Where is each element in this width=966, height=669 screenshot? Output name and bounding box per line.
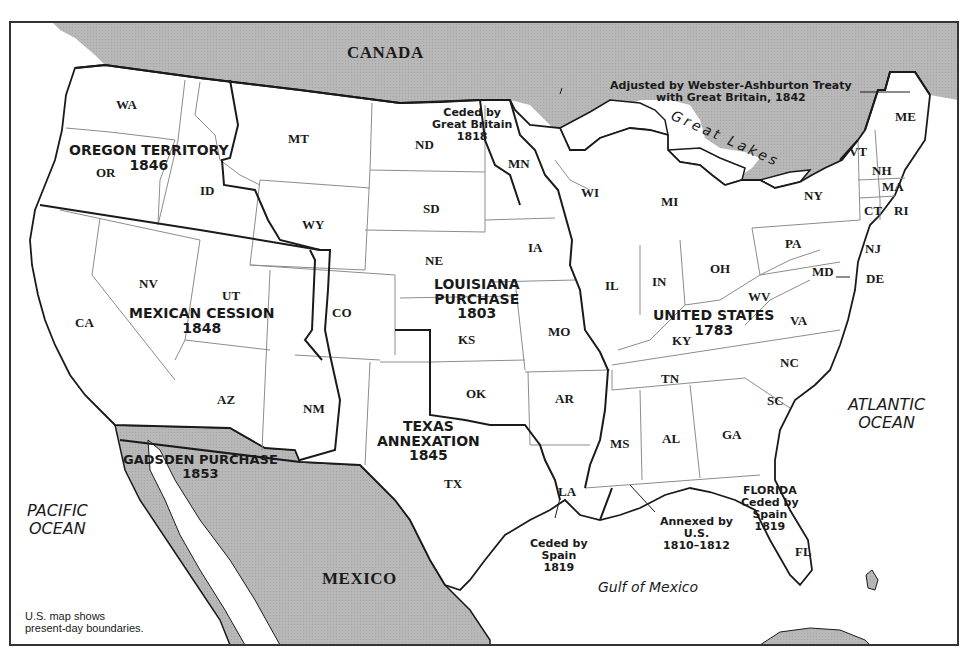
mexican-cession-year: 1848 bbox=[129, 321, 274, 336]
state-label-tx: TX bbox=[444, 477, 462, 490]
label-pacific-ocean: PACIFIC OCEAN bbox=[27, 502, 88, 537]
state-label-ct: CT bbox=[864, 204, 882, 217]
florida-year: 1819 bbox=[741, 521, 799, 533]
state-label-ut: UT bbox=[222, 289, 240, 302]
state-label-md: MD bbox=[812, 265, 834, 278]
annotation-ceded-spain-1819: Ceded by Spain 1819 bbox=[530, 538, 588, 574]
state-label-nj: NJ bbox=[865, 242, 881, 255]
state-label-oh: OH bbox=[710, 262, 730, 275]
state-label-ri: RI bbox=[894, 204, 908, 217]
state-label-nd: ND bbox=[415, 138, 434, 151]
label-florida: FLORIDA Ceded by Spain 1819 bbox=[741, 485, 799, 533]
state-label-nv: NV bbox=[139, 277, 158, 290]
us-name: UNITED STATES bbox=[653, 308, 774, 323]
footnote: U.S. map shows present-day boundaries. bbox=[25, 611, 144, 634]
mexican-cession-name: MEXICAN CESSION bbox=[129, 306, 274, 321]
annotation-ceded-great-britain: Ceded by Great Britain 1818 bbox=[432, 107, 512, 143]
state-label-wi: WI bbox=[581, 186, 599, 199]
state-label-il: IL bbox=[605, 279, 619, 292]
state-label-ne: NE bbox=[425, 254, 443, 267]
state-label-de: DE bbox=[866, 272, 884, 285]
annotation-webster-ashburton: Adjusted by Webster-Ashburton Treaty wit… bbox=[610, 80, 852, 104]
louisiana-line2: PURCHASE bbox=[434, 292, 520, 307]
louisiana-line1: LOUISIANA bbox=[434, 277, 520, 292]
state-label-nh: NH bbox=[872, 164, 892, 177]
state-label-ks: KS bbox=[458, 333, 475, 346]
annotation-annexed-us: Annexed by U.S. 1810–1812 bbox=[660, 516, 733, 552]
state-label-mt: MT bbox=[288, 132, 309, 145]
state-label-in: IN bbox=[652, 275, 666, 288]
atlantic-line1: ATLANTIC bbox=[848, 396, 925, 414]
ceded-spain-line3: 1819 bbox=[530, 562, 588, 574]
state-label-pa: PA bbox=[785, 237, 801, 250]
ceded-gb-line3: 1818 bbox=[432, 131, 512, 143]
state-label-al: AL bbox=[662, 432, 680, 445]
oregon-year: 1846 bbox=[69, 158, 229, 173]
state-label-nm: NM bbox=[303, 402, 325, 415]
pacific-line2: OCEAN bbox=[27, 520, 88, 538]
state-label-va: VA bbox=[790, 314, 807, 327]
state-label-ny: NY bbox=[804, 189, 823, 202]
texas-year: 1845 bbox=[377, 448, 480, 463]
label-mexico: MEXICO bbox=[322, 570, 397, 587]
label-oregon-territory: OREGON TERRITORY 1846 bbox=[69, 143, 229, 172]
louisiana-year: 1803 bbox=[434, 306, 520, 321]
state-label-fl: FL bbox=[795, 545, 812, 558]
gadsden-name: GADSDEN PURCHASE bbox=[123, 453, 278, 467]
state-label-ca: CA bbox=[75, 316, 94, 329]
state-label-wy: WY bbox=[302, 218, 324, 231]
state-label-sc: SC bbox=[767, 394, 784, 407]
state-label-ma: MA bbox=[882, 180, 904, 193]
label-louisiana-purchase: LOUISIANA PURCHASE 1803 bbox=[434, 277, 520, 321]
state-label-nc: NC bbox=[780, 356, 799, 369]
oregon-name: OREGON TERRITORY bbox=[69, 143, 229, 158]
label-atlantic-ocean: ATLANTIC OCEAN bbox=[848, 396, 925, 431]
label-gulf-of-mexico: Gulf of Mexico bbox=[598, 580, 698, 594]
label-texas-annexation: TEXAS ANNEXATION 1845 bbox=[377, 419, 480, 463]
state-label-ia: IA bbox=[528, 241, 542, 254]
state-label-mo: MO bbox=[548, 325, 570, 338]
state-label-or: OR bbox=[96, 166, 116, 179]
webster-line2: with Great Britain, 1842 bbox=[610, 92, 852, 104]
state-label-az: AZ bbox=[217, 393, 235, 406]
state-label-ga: GA bbox=[722, 428, 742, 441]
texas-line1: TEXAS bbox=[377, 419, 480, 434]
state-label-co: CO bbox=[332, 306, 352, 319]
state-label-ok: OK bbox=[466, 387, 486, 400]
state-label-wa: WA bbox=[116, 98, 137, 111]
state-label-wv: WV bbox=[748, 290, 770, 303]
label-gadsden-purchase: GADSDEN PURCHASE 1853 bbox=[123, 453, 278, 480]
state-label-tn: TN bbox=[661, 372, 679, 385]
state-label-la: LA bbox=[558, 485, 576, 498]
texas-line2: ANNEXATION bbox=[377, 434, 480, 449]
state-label-mi: MI bbox=[661, 195, 678, 208]
state-label-ky: KY bbox=[672, 334, 692, 347]
annexed-line3: 1810–1812 bbox=[660, 540, 733, 552]
state-label-sd: SD bbox=[423, 202, 440, 215]
gadsden-year: 1853 bbox=[123, 467, 278, 481]
state-label-mn: MN bbox=[508, 157, 530, 170]
atlantic-line2: OCEAN bbox=[848, 414, 925, 432]
state-label-id: ID bbox=[200, 184, 214, 197]
state-label-ar: AR bbox=[555, 392, 574, 405]
state-label-vt: VT bbox=[849, 145, 867, 158]
label-mexican-cession: MEXICAN CESSION 1848 bbox=[129, 306, 274, 335]
state-label-ms: MS bbox=[610, 437, 630, 450]
footnote-line1: U.S. map shows bbox=[25, 611, 144, 623]
pacific-line1: PACIFIC bbox=[27, 502, 88, 520]
footnote-line2: present-day boundaries. bbox=[25, 623, 144, 635]
label-canada: CANADA bbox=[347, 44, 424, 61]
state-label-me: ME bbox=[895, 110, 916, 123]
